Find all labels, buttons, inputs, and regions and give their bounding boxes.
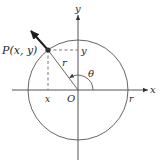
unit-circle-diagram: P(x, y) y x O r r θ x y <box>0 0 162 162</box>
radius-label: r <box>62 57 68 68</box>
x-coord-label: x <box>45 94 50 104</box>
point-label: P(x, y) <box>1 44 37 57</box>
radius-axis-label: r <box>129 94 134 104</box>
x-axis-label: x <box>150 84 156 95</box>
y-coord-label: y <box>80 45 87 56</box>
y-axis-label: y <box>74 3 81 14</box>
radius-line <box>48 50 78 90</box>
point-p-dot <box>45 47 50 52</box>
theta-label: θ <box>88 68 94 79</box>
origin-label: O <box>67 93 75 104</box>
